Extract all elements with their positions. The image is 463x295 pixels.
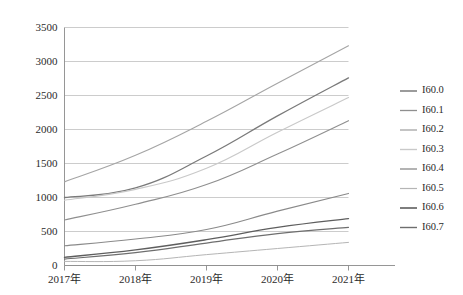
x-axis-tick-marks: [65, 266, 349, 271]
legend-label-i60-5[interactable]: I60.5: [422, 182, 444, 193]
x-axis-tick-labels: 2017年2018年2019年2020年2021年: [48, 272, 365, 285]
y-tick-label: 0: [52, 259, 58, 271]
legend-label-i60-6[interactable]: I60.6: [422, 201, 444, 212]
series-line-i60-4: [65, 193, 349, 245]
line-chart: 0500100015002000250030003500 2017年2018年2…: [0, 0, 463, 295]
x-tick-label: 2018年: [119, 272, 152, 285]
series-line-i60-1: [65, 121, 349, 220]
x-tick-label: 2021年: [332, 272, 365, 285]
y-axis-tick-labels: 0500100015002000250030003500: [36, 21, 59, 271]
legend-label-i60-0[interactable]: I60.0: [422, 84, 444, 95]
y-tick-label: 2000: [36, 123, 59, 135]
series-line-i60-5: [65, 242, 349, 261]
chart-axes: [65, 28, 396, 266]
data-series-group: [65, 46, 349, 262]
legend-label-i60-7[interactable]: I60.7: [422, 221, 444, 232]
chart-canvas: 0500100015002000250030003500 2017年2018年2…: [0, 0, 463, 295]
series-line-i60-2: [65, 46, 349, 182]
y-tick-label: 2500: [36, 89, 59, 101]
x-tick-label: 2020年: [261, 272, 294, 285]
chart-legend: I60.0I60.1I60.2I60.3I60.4I60.5I60.6I60.7: [400, 84, 445, 232]
y-tick-label: 500: [41, 225, 58, 237]
legend-label-i60-1[interactable]: I60.1: [422, 104, 444, 115]
series-line-i60-6: [65, 219, 349, 258]
x-tick-label: 2019年: [190, 272, 223, 285]
y-tick-label: 3500: [36, 21, 59, 33]
y-tick-label: 1500: [36, 157, 59, 169]
legend-label-i60-4[interactable]: I60.4: [422, 162, 445, 173]
x-tick-label: 2017年: [48, 272, 81, 285]
legend-label-i60-2[interactable]: I60.2: [422, 123, 444, 134]
legend-label-i60-3[interactable]: I60.3: [422, 143, 444, 154]
y-tick-label: 1000: [36, 191, 59, 203]
y-tick-label: 3000: [36, 55, 59, 67]
